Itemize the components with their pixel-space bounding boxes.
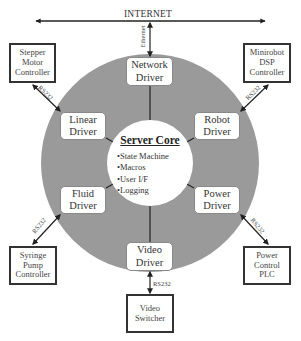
- rs232-label-video: RS232: [153, 280, 171, 287]
- internet-label: INTERNET: [110, 9, 186, 19]
- power-driver-box[interactable]: Power Driver: [194, 186, 240, 214]
- linear-driver-box[interactable]: Linear Driver: [60, 112, 106, 140]
- box-label: Controller: [16, 270, 51, 280]
- core-feature-item: Logging: [117, 185, 169, 196]
- box-label: Driver: [69, 126, 96, 138]
- server-core-feature-list: State Machine Macros User I/F Logging: [117, 151, 169, 196]
- box-label: Controller: [15, 68, 50, 78]
- power-control-plc-box[interactable]: Power Control PLC: [243, 246, 291, 285]
- video-switcher-box[interactable]: Video Switcher: [126, 294, 174, 333]
- core-feature-item: Macros: [117, 162, 169, 173]
- ethernet-label: Ethernet: [139, 25, 146, 47]
- minirobot-dsp-controller-box[interactable]: Minirobot DSP Controller: [243, 43, 291, 83]
- robot-driver-box[interactable]: Robot Driver: [194, 112, 240, 140]
- box-label: Video: [137, 244, 162, 256]
- fluid-driver-box[interactable]: Fluid Driver: [60, 186, 106, 214]
- box-label: Driver: [203, 126, 230, 138]
- box-label: Controller: [250, 68, 285, 78]
- core-feature-item: State Machine: [117, 151, 169, 162]
- core-feature-item: User I/F: [117, 174, 169, 185]
- stepper-motor-controller-box[interactable]: Stepper Motor Controller: [9, 43, 56, 83]
- box-label: Switcher: [135, 314, 165, 324]
- box-label: Driver: [136, 72, 163, 84]
- box-label: Driver: [136, 257, 163, 269]
- box-label: Network: [131, 59, 168, 71]
- box-label: Driver: [69, 200, 96, 212]
- box-label: PLC: [259, 270, 275, 280]
- syringe-pump-controller-box[interactable]: Syringe Pump Controller: [9, 246, 57, 285]
- video-driver-box[interactable]: Video Driver: [126, 242, 173, 271]
- box-label: Power: [204, 188, 231, 200]
- box-label: Robot: [204, 114, 230, 126]
- network-driver-box[interactable]: Network Driver: [126, 57, 173, 86]
- server-core-title: Server Core: [108, 134, 192, 146]
- box-label: Fluid: [72, 188, 94, 200]
- box-label: Driver: [203, 200, 230, 212]
- box-label: Linear: [69, 114, 96, 126]
